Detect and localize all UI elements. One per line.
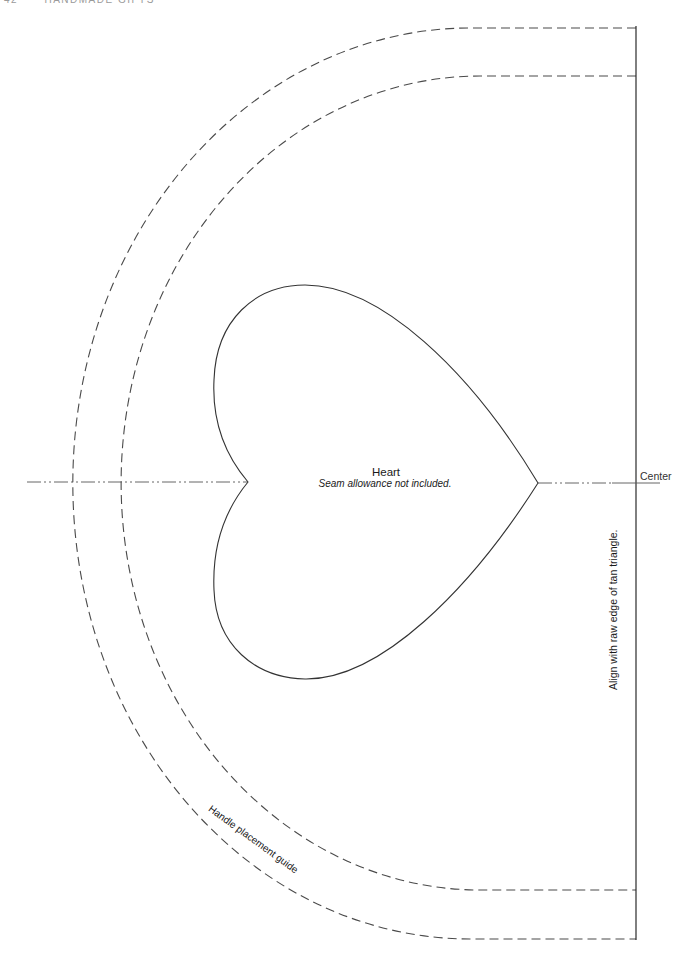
- seam-allowance-note: Seam allowance not included.: [310, 478, 460, 489]
- alignment-instruction: Align with raw edge of tan triangle.: [607, 529, 619, 690]
- piece-name: Heart: [356, 466, 416, 478]
- center-label: Center: [640, 470, 672, 482]
